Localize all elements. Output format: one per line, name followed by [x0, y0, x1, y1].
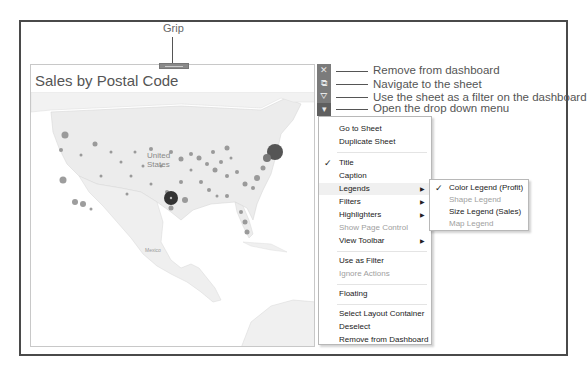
menu-item-select-layout-container[interactable]: Select Layout Container — [319, 308, 431, 320]
filter-icon[interactable]: ⛛ — [317, 90, 331, 103]
dropdown-icon[interactable]: ▾ — [317, 103, 331, 116]
sheet-title: Sales by Postal Code — [35, 72, 178, 89]
menu-item-label: Remove from Dashboard — [339, 335, 428, 344]
south-america-landmass — [241, 300, 315, 347]
menu-item-floating[interactable]: Floating — [319, 288, 431, 300]
menu-item-label: Use as Filter — [339, 256, 384, 265]
menu-item-label: Filters — [339, 197, 361, 206]
menu-item-label: Legends — [339, 184, 370, 193]
menu-item-ignore-actions: Ignore Actions — [319, 268, 431, 280]
dot-new-jersey — [263, 154, 271, 162]
sheet-toolbar: ✕ ⧉ ⛛ ▾ — [317, 64, 331, 116]
submenu-item-size-legend[interactable]: Size Legend (Sales) — [430, 206, 528, 218]
grip-annotation: Grip — [163, 22, 184, 34]
menu-item-deselect[interactable]: Deselect — [319, 321, 431, 333]
annotation-navigate: Navigate to the sheet — [373, 78, 482, 90]
menu-separator — [337, 251, 427, 252]
menu-item-label: Go to Sheet — [339, 124, 382, 133]
menu-item-label: Floating — [339, 289, 367, 298]
submenu-item-label: Shape Legend — [449, 195, 501, 204]
menu-item-label: Title — [339, 158, 354, 167]
menu-item-highlighters[interactable]: Highlighters▶ — [319, 209, 431, 221]
map-label-mexico: Mexico — [145, 247, 161, 253]
submenu-arrow-icon: ▶ — [420, 196, 425, 208]
grip-handle[interactable] — [159, 63, 189, 69]
annotation-line-navigate — [336, 84, 368, 85]
menu-item-label: Caption — [339, 171, 367, 180]
submenu-item-label: Map Legend — [449, 219, 493, 228]
menu-item-label: Show Page Control — [339, 223, 408, 232]
grip-annotation-line — [172, 37, 173, 63]
menu-item-use-as-filter[interactable]: Use as Filter — [319, 255, 431, 267]
annotation-remove: Remove from dashboard — [373, 64, 500, 76]
annotation-line-dropdown — [336, 109, 368, 110]
submenu-arrow-icon: ▶ — [420, 183, 425, 195]
sheet-context-menu: Go to Sheet Duplicate Sheet ✓Title Capti… — [318, 116, 432, 345]
menu-item-label: Highlighters — [339, 210, 381, 219]
map-label-united: United — [147, 151, 170, 160]
annotation-line-remove — [336, 71, 368, 72]
menu-item-label: Deselect — [339, 322, 370, 331]
menu-item-view-toolbar[interactable]: View Toolbar▶ — [319, 235, 431, 247]
submenu-item-color-legend[interactable]: ✓Color Legend (Profit) — [430, 182, 528, 194]
menu-item-remove-from-dashboard[interactable]: Remove from Dashboard — [319, 334, 431, 346]
menu-item-legends[interactable]: Legends▶ — [319, 183, 431, 195]
submenu-item-label: Color Legend (Profit) — [449, 183, 523, 192]
submenu-item-shape-legend: Shape Legend — [430, 194, 528, 206]
menu-separator — [337, 304, 427, 305]
map-view[interactable]: United States Mexico — [31, 92, 315, 347]
legends-submenu: ✓Color Legend (Profit) Shape Legend Size… — [429, 179, 529, 231]
menu-item-label: Duplicate Sheet — [339, 137, 395, 146]
menu-item-label: View Toolbar — [339, 236, 385, 245]
submenu-item-map-legend: Map Legend — [430, 218, 528, 230]
check-icon: ✓ — [435, 182, 443, 194]
check-icon: ✓ — [324, 157, 332, 169]
map-label-states: States — [147, 160, 170, 169]
menu-item-duplicate-sheet[interactable]: Duplicate Sheet — [319, 136, 431, 148]
menu-item-label: Select Layout Container — [339, 309, 424, 318]
menu-separator — [337, 152, 427, 153]
menu-separator — [337, 284, 427, 285]
menu-item-title[interactable]: ✓Title — [319, 157, 431, 169]
menu-item-show-page-control: Show Page Control — [319, 222, 431, 234]
menu-item-caption[interactable]: Caption — [319, 170, 431, 182]
sheet-sales-by-postal-code[interactable]: Sales by Postal Code — [30, 64, 315, 347]
submenu-arrow-icon: ▶ — [420, 235, 425, 247]
menu-item-label: Ignore Actions — [339, 269, 390, 278]
menu-item-go-to-sheet[interactable]: Go to Sheet — [319, 123, 431, 135]
cuba — [243, 242, 287, 252]
annotation-line-filter — [336, 97, 368, 98]
submenu-arrow-icon: ▶ — [420, 209, 425, 221]
navigate-sheet-icon[interactable]: ⧉ — [317, 77, 331, 90]
close-icon[interactable]: ✕ — [317, 64, 331, 77]
annotation-dropdown: Open the drop down menu — [373, 102, 509, 114]
submenu-item-label: Size Legend (Sales) — [449, 207, 521, 216]
menu-item-filters[interactable]: Filters▶ — [319, 196, 431, 208]
